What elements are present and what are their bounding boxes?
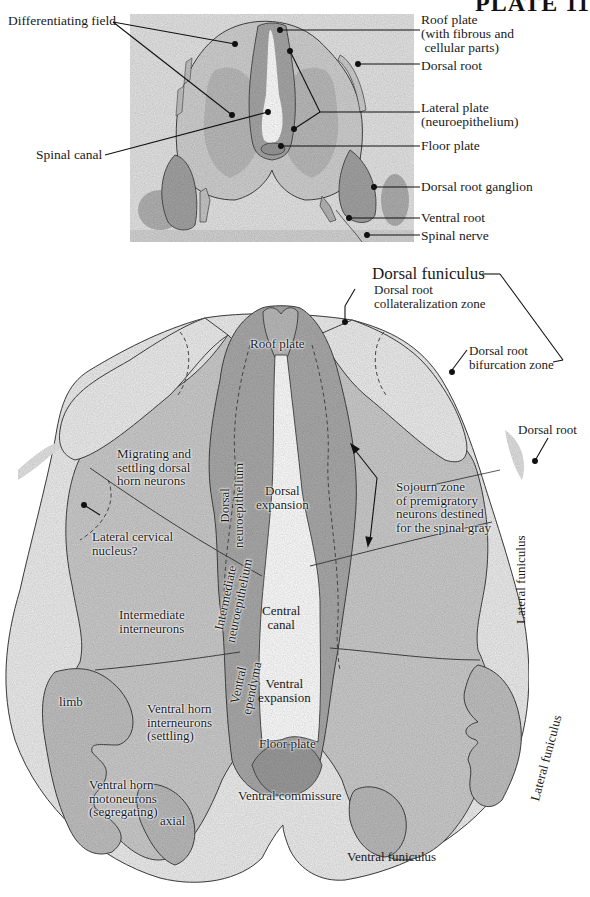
label-lateral-funiculus-upper: Lateral funiculus	[514, 536, 528, 624]
label-limb: limb	[59, 695, 83, 709]
label-lateral-cervical-nucleus: Lateral cervical nucleus?	[92, 530, 173, 557]
label-dorsal-root-top: Dorsal root	[421, 59, 482, 73]
label-sojourn-zone: Sojourn zone of premigratory neurons des…	[396, 480, 491, 534]
label-migrating-settling-neurons: Migrating and settling dorsal horn neuro…	[117, 447, 191, 488]
label-ventral-horn-motoneurons: Ventral horn motoneurons (segregating)	[89, 778, 158, 819]
label-ventral-funiculus: Ventral funiculus	[347, 850, 436, 864]
label-dorsal-neuroepithelium: Dorsal neuroepithelium	[218, 463, 245, 548]
label-lateral-plate: Lateral plate (neuroepithelium)	[421, 101, 518, 129]
label-intermediate-interneurons: Intermediate interneurons	[119, 608, 185, 635]
label-axial: axial	[160, 814, 185, 828]
label-spinal-nerve: Spinal nerve	[421, 229, 489, 243]
top-section-photo	[130, 14, 414, 242]
label-dorsal-funiculus: Dorsal funiculus	[372, 265, 485, 283]
label-floor-plate-bottom: Floor plate	[259, 737, 316, 751]
label-floor-plate-top: Floor plate	[421, 139, 480, 153]
label-central-canal: Central canal	[262, 604, 300, 631]
label-ventral-commissure: Ventral commissure	[238, 789, 342, 803]
label-roof-plate-top: Roof plate (with fibrous and cellular pa…	[421, 13, 514, 55]
label-dorsal-root-bifurcation-zone: Dorsal root bifurcation zone	[469, 344, 554, 371]
label-dorsal-root-ganglion: Dorsal root ganglion	[421, 180, 533, 194]
label-ventral-root: Ventral root	[421, 211, 485, 225]
label-dorsal-expansion: Dorsal expansion	[256, 484, 309, 511]
label-differentiating-field: Differentiating field	[8, 14, 116, 28]
label-ventral-expansion: Ventral expansion	[258, 677, 311, 704]
label-ventral-horn-interneurons: Ventral horn interneurons (settling)	[147, 702, 212, 743]
label-roof-plate-bottom: Roof plate	[250, 337, 305, 351]
label-dorsal-root-bottom: Dorsal root	[518, 423, 577, 437]
label-dorsal-root-collateralization-zone: Dorsal root collateralization zone	[374, 283, 486, 310]
label-spinal-canal: Spinal canal	[36, 148, 102, 162]
